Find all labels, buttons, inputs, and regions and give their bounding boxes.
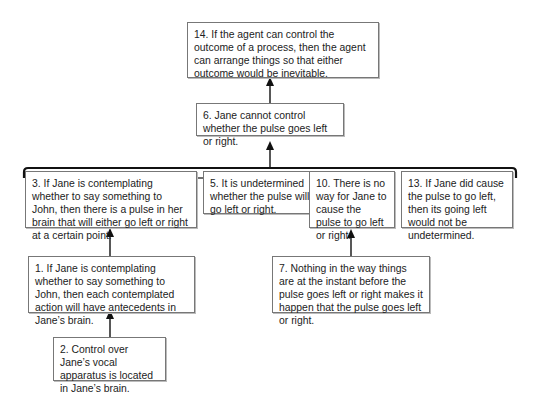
claim-box-3: 3. If Jane is contemplating whether to s… [25, 171, 197, 228]
claim-box-2: 2. Control over Jane’s vocal apparatus i… [53, 337, 166, 381]
claim-text-5: 5. It is undetermined whether the pulse … [210, 178, 309, 215]
claim-box-10: 10. There is no way for Jane to cause th… [309, 171, 395, 228]
claim-box-7: 7. Nothing in the way things are at the … [272, 256, 430, 313]
claim-box-13: 13. If Jane did cause the pulse to go le… [401, 171, 513, 228]
claim-box-5: 5. It is undetermined whether the pulse … [203, 171, 325, 214]
claim-box-6: 6. Jane cannot control whether the pulse… [196, 103, 344, 136]
claim-text-14: 14. If the agent can control the outcome… [194, 29, 366, 79]
claim-box-14: 14. If the agent can control the outcome… [187, 22, 379, 78]
claim-box-1: 1. If Jane is contemplating whether to s… [28, 256, 195, 313]
arrowhead-icon [266, 141, 274, 150]
